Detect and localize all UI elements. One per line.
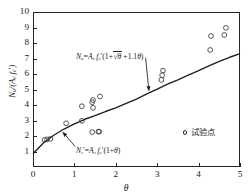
- data-point: [91, 105, 96, 110]
- data-point: [224, 25, 229, 30]
- upper-formula-annotation: Nu=Ac fc′(1+√θ +1.1θ): [76, 52, 143, 63]
- data-point: [98, 94, 103, 99]
- circle-marker-icon: [183, 130, 187, 134]
- data-point: [160, 73, 165, 78]
- model-curve: [33, 54, 240, 154]
- scatter-points: [42, 25, 228, 142]
- lower-formula-arrow: [63, 132, 75, 146]
- data-point: [209, 34, 214, 39]
- model-curve-path: [33, 54, 240, 154]
- upper-formula-arrow: [146, 58, 149, 91]
- lower-formula-annotation: Ns′=Ac fc′(1+θ): [76, 146, 120, 157]
- data-point: [208, 48, 213, 53]
- figure-container: Nu/(Ac fc′) θ 12345678910 012345 Nu=Ac f…: [0, 0, 252, 196]
- data-point: [159, 77, 164, 82]
- data-point: [222, 33, 227, 38]
- legend-label: 试验点: [191, 128, 215, 137]
- annotation-arrows: [63, 58, 149, 147]
- data-point: [161, 68, 166, 73]
- legend: 试验点: [183, 128, 215, 137]
- data-point: [90, 130, 95, 135]
- data-point: [64, 121, 69, 126]
- plot-canvas: [0, 0, 252, 196]
- data-point: [79, 104, 84, 109]
